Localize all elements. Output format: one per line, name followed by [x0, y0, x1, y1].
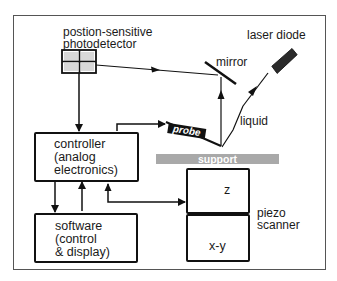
controller-to-probe-line	[117, 124, 165, 131]
beam-arrow-icon	[151, 67, 160, 73]
controller-box: controller (analog electronics)	[34, 132, 139, 182]
controller-to-piezo-line	[108, 184, 185, 202]
laser-diode-icon	[269, 48, 299, 74]
z-label: z	[224, 184, 230, 197]
piezo-feedback-arrow-icon	[105, 183, 112, 191]
piezo-label-line2: scanner	[257, 219, 300, 232]
mirror-label: mirror	[216, 56, 247, 69]
laser-diode-label: laser diode	[247, 29, 306, 42]
software-line2: (control	[55, 233, 97, 246]
software-box: software (control & display)	[34, 213, 138, 263]
support-bar: support	[156, 154, 279, 164]
controller-line2: (analog	[54, 151, 96, 164]
piezo-z-box: z	[186, 168, 250, 214]
piezo-xy-box: x-y	[186, 214, 250, 262]
software-line1: software	[55, 220, 102, 233]
software-line3: & display)	[55, 246, 110, 259]
photodetector-label-line2: photodetector	[63, 38, 136, 51]
laser-arrow-icon	[248, 86, 257, 96]
beam-up-arrow-icon	[218, 90, 225, 99]
controller-line1: controller	[54, 138, 105, 151]
liquid-label: liquid	[240, 115, 268, 128]
photodetector-icon	[62, 50, 96, 73]
controller-line3: electronics)	[54, 164, 118, 177]
xy-label: x-y	[209, 240, 226, 253]
